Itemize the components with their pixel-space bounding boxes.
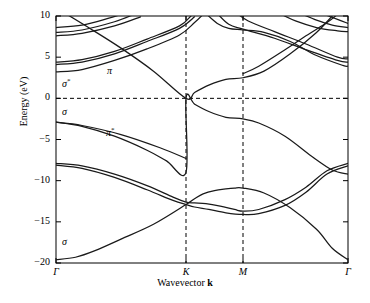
x-tick-label: K (171, 266, 201, 277)
band-curve (56, 163, 348, 211)
x-tick-label: Γ (41, 266, 71, 277)
x-axis-label: Wavevector k (0, 277, 370, 288)
x-tick-label: M (228, 266, 258, 277)
y-tick-label: −10 (16, 174, 50, 185)
band-structure-figure: 1050−5−10−15−20 ΓKMΓ σ*σππ*σ Energy (eV)… (0, 0, 370, 303)
band-curve (56, 188, 348, 260)
y-tick-label: −15 (16, 215, 50, 226)
axis-ticks (56, 16, 348, 263)
band-label-sigma-lower: σ (62, 236, 67, 247)
y-axis-label: Energy (eV) (18, 47, 29, 157)
band-curve (56, 122, 186, 158)
band-label-pi-star: π* (106, 126, 115, 138)
band-curves (56, 8, 348, 260)
band-label-sigma-star: σ* (62, 77, 70, 89)
band-curve (56, 165, 348, 215)
plot-frame (56, 16, 348, 263)
x-tick-label: Γ (333, 266, 363, 277)
y-tick-label: 10 (16, 9, 50, 20)
band-curve (56, 94, 348, 176)
band-label-pi: π (107, 65, 112, 76)
band-label-sigma: σ (62, 106, 67, 117)
guide-lines (56, 16, 348, 263)
band-structure-plot (0, 0, 370, 303)
band-curve (322, 14, 348, 24)
